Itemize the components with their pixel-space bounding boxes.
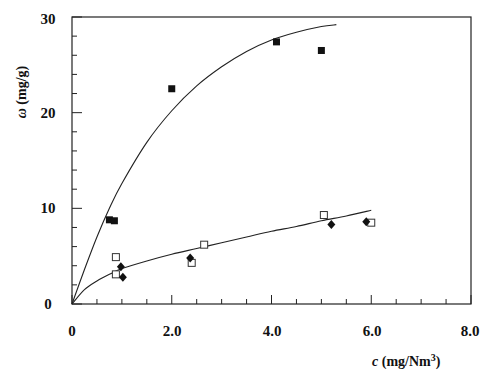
x-tick-labels: 0 2.0 4.0 6.0 8.0 (68, 323, 479, 339)
y-axis-unit: (mg/g) (14, 65, 30, 108)
y-tick-30: 30 (41, 11, 56, 27)
open-square-point (112, 254, 119, 261)
x-axis-unit: (mg/Nm (378, 354, 431, 370)
chart: 0 10 20 30 0 2.0 4.0 6.0 8.0 ω (mg/g) c … (0, 0, 488, 382)
y-tick-0: 0 (44, 296, 52, 312)
upper-fit-curve (72, 25, 336, 304)
x-tick-2: 2.0 (163, 323, 182, 339)
x-tick-4: 4.0 (263, 323, 282, 339)
x-axis-close: ) (436, 354, 441, 370)
svg-text:c (mg/Nm3): c (mg/Nm3) (372, 352, 441, 370)
plot-frame (72, 17, 471, 304)
fitted-curves (72, 25, 371, 304)
axis-ticks (72, 17, 471, 304)
filled-diamond-point (327, 220, 335, 229)
x-tick-0: 0 (68, 323, 76, 339)
y-tick-20: 20 (41, 105, 56, 121)
filled-square-point (273, 38, 280, 45)
x-tick-8: 8.0 (461, 323, 480, 339)
filled-square-point (168, 85, 175, 92)
y-tick-10: 10 (41, 200, 56, 216)
y-axis-label: ω (mg/g) (14, 65, 30, 118)
open-square-point (201, 241, 208, 248)
x-tick-6: 6.0 (363, 323, 382, 339)
data-points (106, 38, 375, 281)
svg-text:ω (mg/g): ω (mg/g) (14, 65, 30, 118)
y-tick-labels: 0 10 20 30 (41, 11, 56, 312)
x-axis-label: c (mg/Nm3) (372, 352, 441, 370)
open-square-point (112, 271, 119, 278)
filled-diamond-point (119, 273, 127, 282)
open-square-point (320, 212, 327, 219)
y-axis-symbol: ω (14, 108, 29, 118)
filled-square-point (318, 47, 325, 54)
filled-square-point (111, 217, 118, 224)
